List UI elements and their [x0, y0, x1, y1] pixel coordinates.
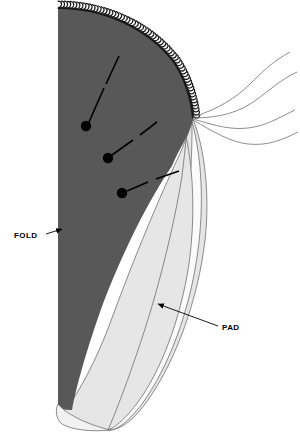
pin-dot-icon: [103, 153, 113, 163]
pin-dot-icon: [81, 121, 91, 131]
pad-label: PAD: [222, 323, 240, 332]
diagram-canvas: FOLD PAD: [0, 0, 300, 434]
pattern-diagram: FOLD PAD: [0, 0, 300, 434]
pin-dot-icon: [117, 188, 127, 198]
fold-label: FOLD: [14, 231, 37, 240]
